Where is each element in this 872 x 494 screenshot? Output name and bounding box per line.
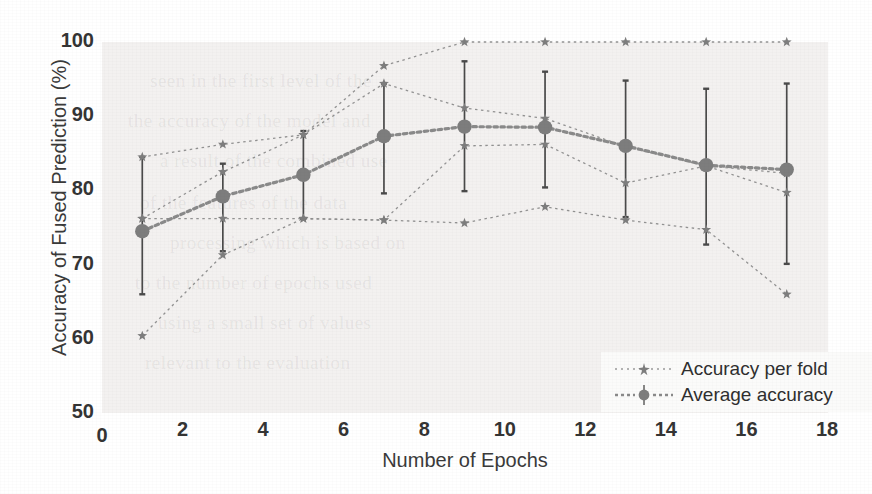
x-tick-label: 10 [485, 418, 525, 441]
star-marker [621, 215, 631, 224]
average-accuracy-marker [135, 224, 149, 238]
legend-item-accuracy-per-fold[interactable]: Accuracy per fold [601, 356, 872, 382]
average-accuracy-marker [538, 120, 552, 134]
x-tick-label: 2 [163, 418, 203, 441]
y-axis-label: Accuracy of Fused Prediction (%) [48, 48, 71, 368]
x-tick-label: 0 [82, 424, 122, 447]
circle-errorbar-marker-icon [613, 383, 675, 407]
star-marker [460, 37, 470, 46]
y-tick-label: 50 [42, 400, 94, 423]
x-tick-label: 18 [807, 418, 847, 441]
average-accuracy-marker [296, 168, 310, 182]
legend-label: Average accuracy [681, 384, 833, 406]
x-tick-label: 4 [243, 418, 283, 441]
average-accuracy-marker [216, 189, 230, 203]
star-marker [540, 37, 550, 46]
star-marker [137, 331, 147, 340]
x-tick-label: 14 [646, 418, 686, 441]
x-tick-label: 6 [324, 418, 364, 441]
average-accuracy-marker [618, 139, 632, 153]
x-tick-label: 16 [726, 418, 766, 441]
chart-page: seen in the first level of the the accur… [0, 0, 872, 494]
fold-line [142, 207, 786, 336]
legend-item-average-accuracy[interactable]: Average accuracy [601, 382, 872, 408]
star-marker [701, 37, 711, 46]
star-marker-icon [613, 357, 675, 381]
star-marker [782, 37, 792, 46]
star-marker [782, 289, 792, 298]
star-marker [540, 202, 550, 211]
average-accuracy-marker [457, 119, 471, 133]
star-marker [218, 139, 228, 148]
average-accuracy-marker [377, 129, 391, 143]
star-marker [298, 213, 308, 222]
average-accuracy-marker [699, 158, 713, 172]
x-tick-label: 8 [404, 418, 444, 441]
x-tick-label: 12 [565, 418, 605, 441]
star-marker [621, 37, 631, 46]
star-marker [460, 218, 470, 227]
legend: Accuracy per fold Average accuracy [601, 352, 872, 412]
average-accuracy-marker [780, 162, 794, 176]
x-axis-label: Number of Epochs [102, 449, 828, 472]
legend-label: Accuracy per fold [681, 358, 828, 380]
